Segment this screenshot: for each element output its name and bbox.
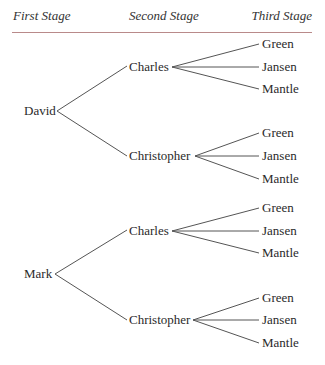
node-leaf-jansen: Jansen [262,60,297,74]
node-leaf-jansen: Jansen [262,224,297,238]
edge [172,231,259,253]
edge [195,156,259,179]
edge [55,274,127,320]
edge [193,298,259,320]
node-leaf-jansen: Jansen [262,149,297,163]
node-leaf-mantle: Mantle [262,246,299,260]
node-leaf-mantle: Mantle [262,172,299,186]
node-mark-christopher: Christopher [129,313,190,327]
edge [172,67,259,89]
node-leaf-green: Green [262,291,294,305]
node-mark: Mark [24,267,52,281]
edge [57,111,127,156]
node-david: David [24,104,56,118]
edge [55,230,127,274]
edge [195,133,259,156]
edge [193,320,259,343]
edge [57,66,127,111]
edge [172,44,259,67]
node-leaf-mantle: Mantle [262,336,299,350]
node-leaf-mantle: Mantle [262,82,299,96]
node-leaf-green: Green [262,201,294,215]
node-leaf-green: Green [262,126,294,140]
node-leaf-jansen: Jansen [262,313,297,327]
node-mark-charles: Charles [129,224,169,238]
edge [172,208,259,231]
node-david-christopher: Christopher [129,149,190,163]
node-leaf-green: Green [262,37,294,51]
node-david-charles: Charles [129,60,169,74]
